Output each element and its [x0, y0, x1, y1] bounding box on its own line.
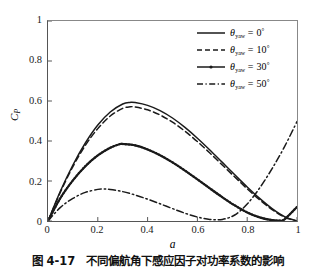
xtick-label-08: 0.8	[231, 224, 265, 235]
legend-entry-10deg: θyaw = 10°	[196, 41, 300, 58]
legend-entry-50deg: θyaw = 50°	[196, 75, 300, 92]
xtick-label-04: 0.4	[130, 224, 164, 235]
ytick-label-08: 0.8	[8, 54, 42, 65]
legend-theta-value-2: 30	[256, 61, 266, 72]
legend-theta-value-3: 50	[256, 78, 266, 89]
legend-label-10deg: θyaw = 10°	[230, 44, 270, 56]
legend-swatch-dashed	[196, 45, 226, 55]
ytick-label-02: 0.2	[8, 176, 42, 187]
legend-theta-subscript-0: yaw	[235, 32, 245, 38]
y-axis-label-symbol: C	[8, 114, 20, 121]
ytick-label-1: 1	[8, 14, 42, 25]
legend-label-30deg: θyaw = 30°	[230, 61, 270, 73]
legend-swatch-solid-marker	[196, 62, 226, 72]
figure-caption: 图 4-17 不同偏航角下感应因子对功率系数的影响	[0, 252, 316, 268]
curve-30deg	[48, 144, 297, 221]
legend-theta-unit-0: °	[262, 27, 265, 35]
xtick-label-06: 0.6	[181, 224, 215, 235]
legend-theta-subscript-1: yaw	[235, 49, 245, 55]
legend-swatch-dashdot	[196, 79, 226, 89]
legend-label-50deg: θyaw = 50°	[230, 78, 270, 90]
legend-theta-value-1: 10	[256, 44, 266, 55]
y-axis-label: CP	[8, 92, 22, 138]
legend-entry-30deg: θyaw = 30°	[196, 58, 300, 75]
curve-50deg	[48, 122, 297, 221]
legend-theta-unit-3: °	[267, 78, 270, 86]
xtick-label-0: 0	[30, 224, 64, 235]
legend-theta-subscript-2: yaw	[235, 66, 245, 72]
xtick-label-02: 0.2	[80, 224, 114, 235]
legend-entry-0deg: θyaw = 0°	[196, 24, 300, 41]
y-axis-label-subscript: P	[13, 109, 22, 114]
legend-theta-subscript-3: yaw	[235, 83, 245, 89]
legend-theta-unit-1: °	[267, 44, 270, 52]
curve-10deg	[48, 107, 297, 221]
legend-swatch-solid	[196, 28, 226, 38]
legend-theta-unit-2: °	[267, 61, 270, 69]
x-axis-label: a	[47, 238, 298, 250]
xtick-label-1: 1	[281, 224, 315, 235]
legend: θyaw = 0° θyaw = 10° θyaw = 30° θyaw = 5…	[196, 24, 300, 92]
legend-label-0deg: θyaw = 0°	[230, 27, 265, 39]
